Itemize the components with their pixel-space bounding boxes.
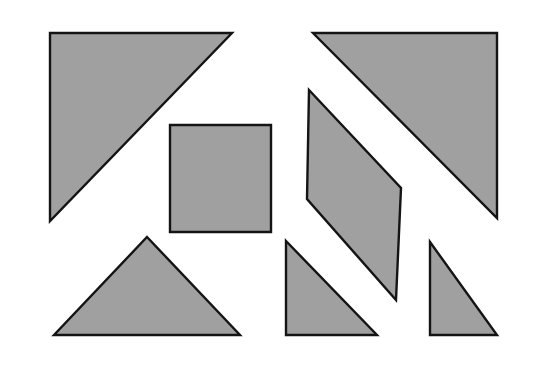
- tangram-canvas: [0, 0, 546, 371]
- tangram-shapes-svg: [0, 0, 546, 371]
- square[interactable]: [170, 125, 271, 232]
